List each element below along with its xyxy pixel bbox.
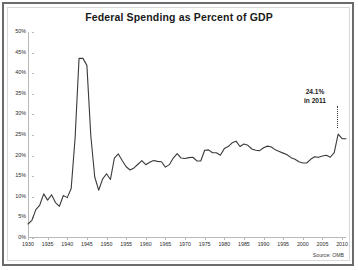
y-axis-tick-label: 45% <box>15 50 26 55</box>
x-axis-tick-labels: 1930193519401945195019551960196519701975… <box>0 242 358 252</box>
x-axis-tick-mark <box>87 238 88 240</box>
x-axis-tick-label: 1965 <box>160 242 172 247</box>
y-axis-tick-label: 35% <box>15 91 26 96</box>
y-axis-tick-label: 10% <box>15 194 26 199</box>
x-axis-tick-mark <box>303 238 304 240</box>
x-axis-tick-mark <box>264 238 265 240</box>
x-axis-tick-label: 1975 <box>199 242 211 247</box>
x-axis-tick-label: 1930 <box>22 242 34 247</box>
x-axis-tick-mark <box>28 238 29 240</box>
x-axis-tick-label: 1955 <box>120 242 132 247</box>
x-axis-tick-mark <box>126 238 127 240</box>
y-axis-tick-labels: 0%5%10%15%20%25%30%35%40%45%50% <box>6 0 26 270</box>
y-axis-tick-mark <box>32 238 34 239</box>
x-axis-tick-mark <box>322 238 323 240</box>
x-axis-tick-mark <box>67 238 68 240</box>
y-axis-tick-label: 25% <box>15 132 26 137</box>
spending-line-series <box>28 32 346 238</box>
annotation-24-1-percent: 24.1% in 2011 <box>289 88 341 105</box>
x-axis-tick-label: 1970 <box>179 242 191 247</box>
x-axis-tick-mark <box>205 238 206 240</box>
x-axis-tick-mark <box>107 238 108 240</box>
annotation-leader-line <box>337 106 338 128</box>
x-axis-tick-label: 1940 <box>61 242 73 247</box>
x-axis-tick-label: 1960 <box>140 242 152 247</box>
x-axis-tick-label: 1985 <box>238 242 250 247</box>
x-axis-tick-label: 2000 <box>297 242 309 247</box>
x-axis-tick-mark <box>283 238 284 240</box>
series-path-federal-spending <box>28 58 346 224</box>
chart-title: Federal Spending as Percent of GDP <box>0 11 358 23</box>
x-axis-tick-label: 2010 <box>336 242 348 247</box>
y-axis-tick-label: 0% <box>18 235 26 240</box>
x-axis-tick-mark <box>146 238 147 240</box>
x-axis-tick-mark <box>244 238 245 240</box>
x-axis-tick-mark <box>224 238 225 240</box>
y-axis-tick-label: 40% <box>15 70 26 75</box>
x-axis-tick-mark <box>165 238 166 240</box>
x-axis-tick-label: 1990 <box>258 242 270 247</box>
x-axis-tick-label: 2005 <box>317 242 329 247</box>
annotation-year: in 2011 <box>289 97 341 106</box>
y-axis-tick-label: 15% <box>15 173 26 178</box>
chart-container: Federal Spending as Percent of GDP 0%5%1… <box>0 0 358 270</box>
x-axis-tick-label: 1935 <box>42 242 54 247</box>
x-axis-tick-label: 1980 <box>218 242 230 247</box>
x-axis-tick-label: 1945 <box>81 242 93 247</box>
annotation-value: 24.1% <box>289 88 341 97</box>
y-axis-tick-label: 20% <box>15 153 26 158</box>
x-axis-tick-mark <box>185 238 186 240</box>
y-axis-tick-label: 5% <box>18 214 26 219</box>
source-note: Source: OMB <box>313 252 344 258</box>
x-axis-tick-mark <box>48 238 49 240</box>
x-axis-tick-mark <box>342 238 343 240</box>
plot-area <box>28 32 346 238</box>
y-axis-tick-label: 50% <box>15 29 26 34</box>
y-axis-tick-label: 30% <box>15 111 26 116</box>
x-axis-tick-label: 1995 <box>277 242 289 247</box>
x-axis-tick-label: 1950 <box>101 242 113 247</box>
